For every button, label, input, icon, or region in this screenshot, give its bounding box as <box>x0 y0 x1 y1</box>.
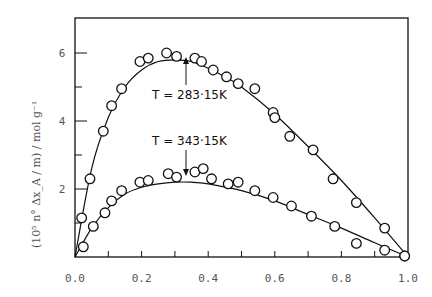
plot-frame <box>75 18 408 257</box>
data-point <box>85 174 95 184</box>
data-points <box>77 48 410 261</box>
annotation-lower: T = 343·15K <box>151 134 228 148</box>
data-point <box>250 186 260 196</box>
x-tick-label: 0.0 <box>65 272 85 285</box>
data-point <box>117 84 127 94</box>
data-point <box>172 172 182 182</box>
data-point <box>233 79 243 89</box>
data-point <box>400 251 410 261</box>
data-point <box>307 211 317 221</box>
data-point <box>89 222 99 232</box>
data-point <box>268 193 278 203</box>
x-tick-label: 0.8 <box>331 272 351 285</box>
data-point <box>250 84 260 94</box>
arrow-lower-head <box>183 169 189 176</box>
data-point <box>222 72 232 82</box>
data-point <box>143 176 153 186</box>
data-point <box>162 48 172 58</box>
data-point <box>352 198 362 208</box>
data-point <box>287 201 297 211</box>
data-point <box>380 223 390 233</box>
y-tick-label: 6 <box>59 47 66 60</box>
data-point <box>99 126 109 136</box>
x-tick-label: 0.4 <box>198 272 218 285</box>
data-point <box>380 245 390 255</box>
chart: 0.00.20.40.60.81.0246 T = 283·15K T = 34… <box>0 0 432 297</box>
data-point <box>308 145 318 155</box>
data-point <box>328 174 338 184</box>
data-point <box>285 132 295 142</box>
y-tick-label: 2 <box>59 183 66 196</box>
data-point <box>207 174 217 184</box>
x-tick-label: 0.6 <box>265 272 285 285</box>
data-point <box>352 239 362 249</box>
data-point <box>208 65 218 75</box>
data-point <box>79 242 89 252</box>
data-point <box>117 186 127 196</box>
data-point <box>172 52 182 62</box>
data-point <box>198 164 208 174</box>
data-point <box>233 177 243 187</box>
data-point <box>223 179 233 189</box>
annotation-upper: T = 283·15K <box>151 88 228 102</box>
data-point <box>107 101 117 111</box>
data-point <box>270 113 280 123</box>
y-axis-label: (10⁵ n° Δx_A / m) / mol g⁻¹ <box>30 101 43 248</box>
y-tick-label: 4 <box>59 115 66 128</box>
x-tick-label: 1.0 <box>398 272 418 285</box>
x-tick-label: 0.2 <box>132 272 152 285</box>
data-point <box>77 213 87 223</box>
data-point <box>197 57 207 67</box>
data-point <box>330 222 340 232</box>
data-point <box>143 53 153 63</box>
data-point <box>100 208 110 218</box>
data-point <box>107 196 117 206</box>
